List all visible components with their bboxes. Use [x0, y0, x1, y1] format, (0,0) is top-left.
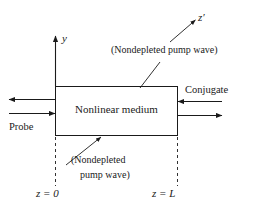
- z-end-marker-label: z = L: [152, 188, 175, 199]
- pump-wave-top-annotation: (Nondepleted pump wave): [111, 45, 218, 55]
- z-start-marker-label: z = 0: [36, 188, 59, 199]
- y-axis-label: y: [62, 33, 67, 44]
- z-prime-leader-line: [140, 62, 160, 88]
- pump-wave-bottom-annotation-line1: (Nondepleted: [71, 155, 125, 165]
- z-prime-axis-arrow: [170, 20, 196, 42]
- conjugate-label: Conjugate: [185, 85, 228, 96]
- figure-canvas: Nonlinear medium Probe Conjugate (Nondep…: [0, 0, 256, 207]
- probe-label: Probe: [9, 122, 34, 133]
- z-prime-axis-label: z′: [198, 12, 205, 23]
- nonlinear-medium-label: Nonlinear medium: [0, 104, 233, 115]
- pump-wave-bottom-annotation-line2: pump wave): [80, 170, 130, 180]
